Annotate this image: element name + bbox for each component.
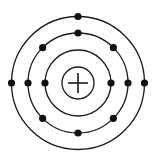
electron	[24, 79, 31, 86]
electron	[39, 115, 46, 122]
bohr-atom-diagram	[0, 0, 159, 161]
electron	[41, 79, 48, 86]
electron	[8, 79, 15, 86]
nucleus	[62, 67, 94, 99]
electron	[39, 44, 46, 51]
electron	[74, 13, 81, 20]
electron	[74, 129, 81, 136]
electron	[74, 29, 81, 36]
electron	[141, 79, 148, 86]
electron	[110, 115, 117, 122]
electron	[107, 79, 114, 86]
electron	[124, 79, 131, 86]
electron	[110, 44, 117, 51]
